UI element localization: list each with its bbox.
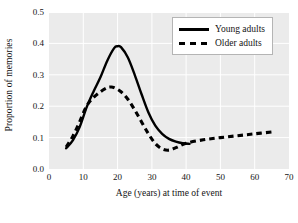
- x-tick-label: 40: [182, 172, 191, 182]
- x-axis-label: Age (years) at time of event: [49, 188, 289, 198]
- legend-swatch-solid-line: [179, 24, 209, 34]
- legend-item-young-adults: Young adults: [179, 22, 265, 36]
- x-tick-label: 60: [250, 172, 259, 182]
- x-tick-label: 10: [79, 172, 88, 182]
- chart-figure: Proportion of memories 0.0 0.1 0.2 0.3 0…: [0, 0, 298, 223]
- x-tick-label: 20: [113, 172, 122, 182]
- legend-label: Young adults: [215, 24, 265, 34]
- legend-swatch-dashed-line: [179, 38, 209, 48]
- chart-legend: Young adults Older adults: [172, 17, 273, 55]
- x-tick-label: 50: [216, 172, 225, 182]
- x-tick-label: 70: [285, 172, 294, 182]
- x-tick-label: 0: [47, 172, 52, 182]
- x-tick-label: 30: [147, 172, 156, 182]
- legend-label: Older adults: [215, 38, 262, 48]
- legend-item-older-adults: Older adults: [179, 36, 265, 50]
